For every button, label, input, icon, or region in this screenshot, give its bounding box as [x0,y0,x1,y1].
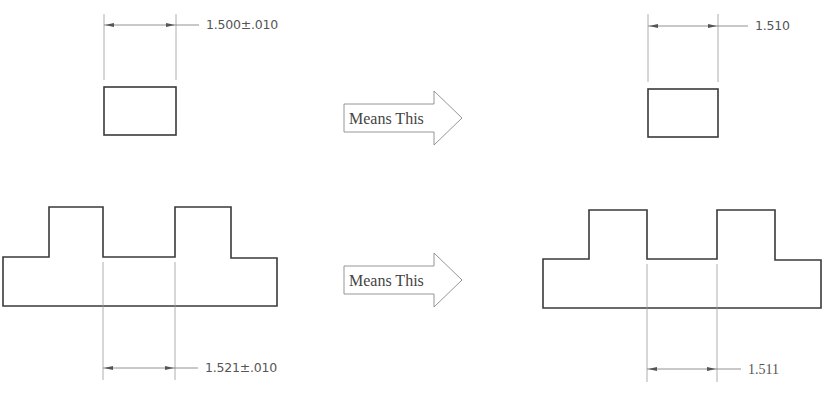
bottom-right-figure: 1.511 [543,210,821,382]
rectangle-part [104,87,176,135]
dimension-label: 1.500±.010 [206,17,278,32]
means-this-arrow-top: Means This [344,91,462,145]
means-this-arrow-bottom: Means This [344,253,462,307]
stepped-part [543,210,821,308]
dimension-arrow-left-icon [648,367,657,371]
bottom-left-figure: 1.521±.010 [3,207,277,380]
dimension-label: 1.521±.010 [205,360,277,375]
arrow-label: Means This [349,110,424,127]
dimension-arrow-right-icon [707,367,716,371]
dimension-arrow-left-icon [105,23,114,27]
dimension-arrow-left-icon [649,24,658,28]
top-right-figure: 1.510 [648,14,790,137]
top-left-figure: 1.500±.010 [104,14,278,135]
dimension-label: 1.510 [755,18,790,33]
tolerance-diagram: 1.500±.010 Means This 1.510 1.521±.010 M… [0,0,832,397]
rectangle-part [648,89,718,137]
arrow-label: Means This [349,272,424,289]
dimension-arrow-right-icon [708,24,717,28]
dimension-arrow-right-icon [165,366,174,370]
dimension-label: 1.511 [748,362,779,377]
dimension-arrow-left-icon [104,366,113,370]
dimension-arrow-right-icon [166,23,175,27]
stepped-part [3,207,277,306]
